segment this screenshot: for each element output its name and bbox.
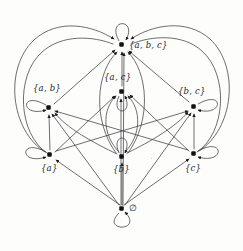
self-loop-bc — [198, 100, 218, 112]
self-loop-b — [117, 138, 127, 153]
self-loop-c — [198, 147, 218, 159]
node-bc[interactable] — [192, 105, 196, 109]
node-empty[interactable] — [120, 207, 124, 211]
edge-a-to-abc-outer — [15, 26, 114, 152]
self-loop-ac — [117, 96, 127, 111]
node-label-abc: {a, b, c} — [129, 40, 168, 50]
graph-canvas — [0, 0, 243, 251]
powerset-lattice-figure: {a, b, c} {a, b} {a, c} {b, c} {a} {b} {… — [0, 0, 243, 251]
node-abc[interactable] — [120, 43, 124, 47]
node-label-b: {b} — [113, 164, 130, 174]
self-loop-ab — [27, 101, 47, 112]
edge-c-to-ac — [130, 95, 189, 151]
node-ac[interactable] — [120, 90, 124, 94]
edges-layer — [15, 26, 230, 205]
node-label-empty: ∅ — [129, 203, 137, 213]
node-label-c: {c} — [185, 163, 201, 173]
self-loop-abc — [116, 24, 129, 41]
node-c[interactable] — [192, 152, 196, 156]
edge-empty-to-ab — [52, 114, 119, 205]
node-a[interactable] — [48, 153, 52, 157]
node-label-bc: {b, c} — [178, 86, 206, 96]
self-loop-a — [26, 148, 46, 159]
node-ab[interactable] — [47, 106, 51, 110]
edge-a-to-ab — [49, 115, 50, 150]
edge-empty-to-a — [56, 160, 120, 205]
edge-b-to-abc-right — [128, 52, 145, 153]
node-b[interactable] — [120, 155, 124, 159]
node-label-a: {a} — [41, 163, 57, 173]
self-loop-empty — [114, 212, 130, 227]
node-label-ac: {a, c} — [104, 72, 131, 82]
node-label-ab: {a, b} — [33, 83, 61, 93]
